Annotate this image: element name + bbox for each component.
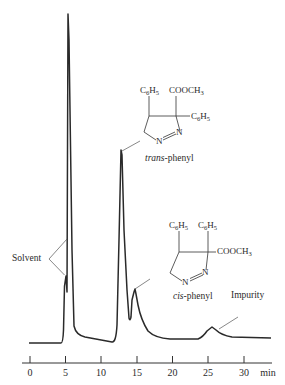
x-axis-unit: min bbox=[260, 368, 276, 378]
solvent-pointers bbox=[49, 239, 67, 275]
x-tick-label: 5 bbox=[63, 368, 68, 378]
x-tick-label: 10 bbox=[96, 368, 106, 378]
trans-c6h5-left: C6H5 bbox=[140, 86, 159, 95]
cis-c6h5-left: C6H5 bbox=[169, 221, 188, 230]
impurity-label: Impurity bbox=[231, 291, 264, 301]
impurity-pointer bbox=[219, 317, 238, 329]
trans-pointer bbox=[122, 141, 140, 151]
trans-n1: N bbox=[156, 137, 163, 146]
cis-pointer bbox=[135, 279, 150, 289]
trans-cooch3: COOCH3 bbox=[169, 86, 204, 95]
solvent-label: Solvent bbox=[12, 254, 41, 264]
trans-structure-ring bbox=[144, 96, 190, 140]
trans-n2: N bbox=[176, 128, 183, 137]
cis-phenyl-label: cis-phenyl bbox=[173, 292, 213, 302]
cis-n2: N bbox=[202, 268, 209, 277]
cis-structure-ring bbox=[170, 231, 216, 281]
trans-c6h5-right: C6H5 bbox=[191, 112, 210, 121]
x-tick-label: 20 bbox=[168, 368, 178, 378]
x-tick-label: 15 bbox=[132, 368, 142, 378]
x-tick-label: 0 bbox=[28, 368, 33, 378]
cis-n1: N bbox=[182, 278, 189, 287]
chromatogram bbox=[0, 0, 285, 385]
x-tick-label: 30 bbox=[239, 368, 249, 378]
trans-phenyl-label: trans-phenyl bbox=[145, 154, 194, 164]
cis-c6h5-right: C6H5 bbox=[198, 221, 217, 230]
x-axis-ticks bbox=[30, 356, 244, 363]
cis-cooch3: COOCH3 bbox=[217, 247, 252, 256]
x-tick-label: 25 bbox=[203, 368, 213, 378]
